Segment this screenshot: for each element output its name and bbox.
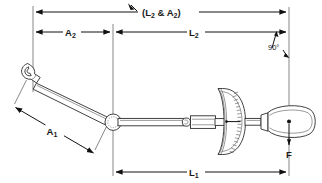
diagram-canvas: (L2 & A2) A2 L2	[0, 0, 322, 183]
link-joint-outer	[182, 118, 190, 126]
shank-assembly	[191, 116, 230, 129]
label-90-degree: 90°	[268, 43, 279, 52]
label-A2: A2	[65, 27, 76, 40]
open-end-wrench-head	[22, 64, 41, 84]
label-L2-and-A2: (L2 & A2)	[142, 7, 181, 20]
handle-center-point	[287, 120, 291, 124]
angle-annotation-90: 90°	[268, 31, 290, 58]
handle-grip	[268, 106, 315, 138]
extension-line-A1-end	[95, 127, 107, 151]
angle-leader-arrowhead-lower	[284, 53, 290, 58]
extension-line-A1-start	[15, 80, 27, 104]
wrench-arm-highlight	[37, 85, 107, 119]
label-L2: L2	[189, 27, 199, 40]
wrench-head-body	[22, 64, 41, 84]
dimension-L1: L1	[116, 167, 286, 180]
label-L1: L1	[189, 167, 199, 180]
handle-stem-body	[245, 118, 261, 125]
handle-ferrule	[261, 113, 268, 131]
label-F: F	[286, 149, 292, 160]
label-A1: A1	[47, 126, 58, 139]
dimension-leader-arrowhead	[128, 3, 135, 10]
dimension-line-A1-lower	[16, 108, 46, 126]
handle	[261, 106, 315, 138]
technical-diagram: (L2 & A2) A2 L2	[0, 0, 322, 183]
dimension-line-A1-upper	[64, 136, 94, 153]
dial-gauge-needle-hub	[225, 120, 228, 123]
handle-stem	[245, 118, 261, 125]
shank-collar	[191, 116, 216, 129]
dimension-L2: L2	[116, 27, 286, 40]
wrench-arm	[33, 83, 108, 124]
extension-bar	[118, 118, 184, 125]
dimension-L2-and-A2: (L2 & A2)	[36, 3, 286, 19]
extension-bar-body	[118, 118, 184, 125]
dimension-A2: A2	[36, 27, 110, 40]
link-joint	[182, 118, 190, 126]
